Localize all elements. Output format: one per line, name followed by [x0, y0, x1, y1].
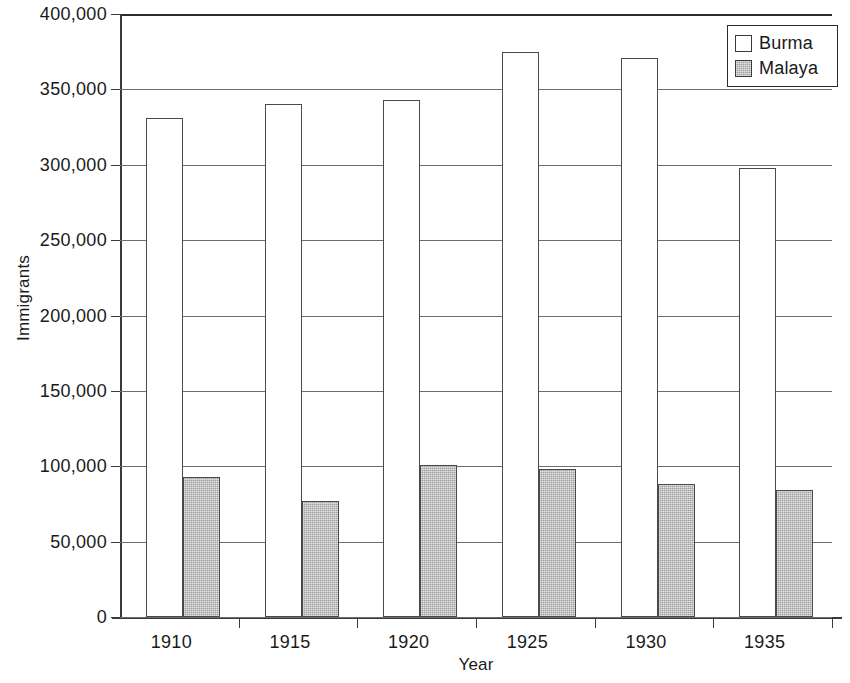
y-tick-mark [111, 466, 120, 467]
gridline [120, 89, 832, 90]
plot-top-border [120, 14, 832, 16]
bar-burma-1920 [383, 100, 420, 617]
x-tick-mark [239, 618, 240, 628]
y-tick-mark [111, 391, 120, 392]
x-tick-mark [595, 618, 596, 628]
legend-label-burma: Burma [759, 33, 813, 54]
y-tick-mark [111, 542, 120, 543]
y-tick-label: 50,000 [50, 531, 107, 552]
y-tick-mark [111, 14, 120, 15]
bar-burma-1935 [739, 168, 776, 617]
bar-malaya-1935 [776, 490, 813, 617]
y-tick-mark [111, 165, 120, 166]
legend-swatch-malaya-icon [735, 60, 752, 77]
x-tick-mark [832, 618, 833, 628]
y-axis-line [120, 14, 122, 619]
y-tick-mark [111, 240, 120, 241]
y-tick-label: 100,000 [40, 456, 107, 477]
y-tick-label: 200,000 [40, 305, 107, 326]
y-tick-label: 0 [97, 607, 107, 628]
legend-item-malaya: Malaya [735, 56, 837, 81]
y-tick-label: 350,000 [40, 79, 107, 100]
bar-malaya-1910 [183, 477, 220, 617]
bar-burma-1925 [502, 52, 539, 617]
gridline [120, 165, 832, 166]
y-tick-label: 300,000 [40, 154, 107, 175]
y-tick-mark [111, 89, 120, 90]
x-tick-label: 1930 [625, 632, 666, 653]
gridline [120, 316, 832, 317]
gridline [120, 240, 832, 241]
legend-item-burma: Burma [735, 31, 837, 56]
legend-swatch-burma-icon [735, 35, 752, 52]
y-tick-mark [111, 316, 120, 317]
bar-malaya-1920 [420, 465, 457, 617]
bar-malaya-1925 [539, 469, 576, 617]
x-tick-mark [357, 618, 358, 628]
y-tick-label: 250,000 [40, 230, 107, 251]
y-axis-title: Immigrants [14, 228, 34, 368]
bar-burma-1930 [621, 58, 658, 617]
y-tick-label: 150,000 [40, 380, 107, 401]
x-tick-label: 1925 [507, 632, 548, 653]
chart-legend: Burma Malaya [727, 25, 838, 87]
y-tick-mark [111, 617, 120, 618]
bar-malaya-1930 [658, 484, 695, 617]
legend-label-malaya: Malaya [759, 58, 818, 79]
x-tick-label: 1935 [744, 632, 785, 653]
gridline [120, 466, 832, 467]
bar-chart: Immigrants 050,000100,000150,000200,0002… [0, 0, 850, 683]
bar-malaya-1915 [302, 501, 339, 617]
bar-burma-1915 [265, 104, 302, 617]
gridline [120, 391, 832, 392]
x-tick-mark [713, 618, 714, 628]
plot-area: 050,000100,000150,000200,000250,000300,0… [120, 14, 832, 617]
x-tick-label: 1910 [151, 632, 192, 653]
x-tick-label: 1915 [269, 632, 310, 653]
bar-burma-1910 [146, 118, 183, 617]
gridline [120, 542, 832, 543]
x-tick-mark [476, 618, 477, 628]
y-tick-label: 400,000 [40, 4, 107, 25]
x-tick-label: 1920 [388, 632, 429, 653]
x-axis-title: Year [120, 655, 832, 675]
